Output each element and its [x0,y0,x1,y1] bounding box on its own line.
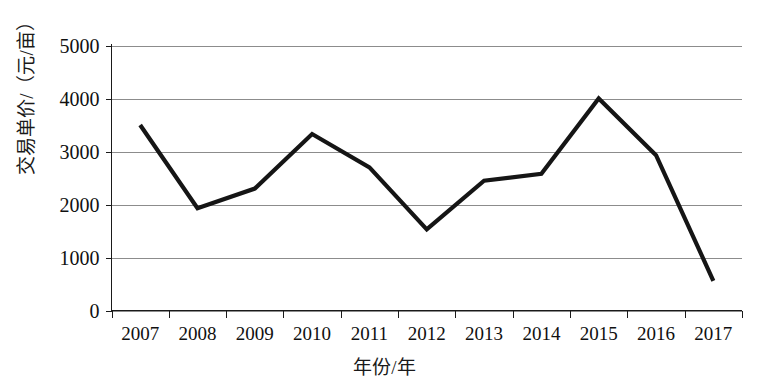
y-axis-title: 交易单价/（元/亩） [11,0,38,214]
y-tick-label: 5000 [30,36,100,56]
line-chart: 010002000300040005000 200720082009201020… [0,0,769,388]
y-tick-label: 3000 [30,142,100,162]
gridlines [112,47,743,312]
x-axis-title: 年份/年 [0,352,769,379]
y-tick-label: 4000 [30,89,100,109]
x-tick-label: 2017 [678,324,748,343]
y-tick-label: 2000 [30,195,100,215]
y-tick-label: 0 [30,301,100,321]
y-tick-label: 1000 [30,248,100,268]
data-series-line [140,99,713,281]
tick-marks [106,47,743,318]
